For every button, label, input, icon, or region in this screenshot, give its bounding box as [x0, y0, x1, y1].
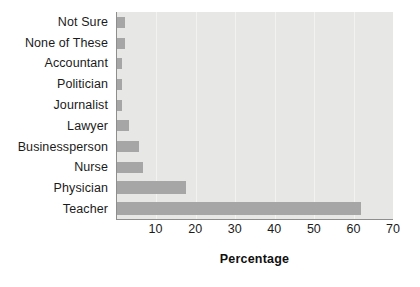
y-axis-label-journalist: Journalist: [54, 99, 114, 112]
bar-businessperson: [117, 141, 139, 152]
x-tick-50: 50: [307, 222, 321, 236]
bar-none-of-these: [117, 38, 125, 49]
x-axis-tick-labels: 10203040506070: [116, 222, 393, 240]
bar-row: [117, 12, 393, 33]
x-tick-40: 40: [267, 222, 281, 236]
x-axis-title: Percentage: [116, 252, 393, 266]
y-axis-label-not-sure: Not Sure: [58, 16, 113, 29]
bar-row: [117, 157, 393, 178]
bar-row: [117, 136, 393, 157]
bar-row: [117, 178, 393, 199]
x-tick-10: 10: [149, 222, 163, 236]
y-axis-label-politician: Politician: [57, 78, 113, 91]
bar-row: [117, 33, 393, 54]
x-tick-30: 30: [228, 222, 242, 236]
bar-politician: [117, 79, 122, 90]
bar-journalist: [117, 100, 122, 111]
plot-area: [116, 12, 393, 220]
y-axis-category-labels: Not Sure None of These Accountant Politi…: [0, 12, 113, 220]
x-tick-20: 20: [188, 222, 202, 236]
bar-row: [117, 95, 393, 116]
bar-physician: [117, 181, 186, 194]
bar-row: [117, 198, 393, 219]
bar-nurse: [117, 162, 143, 173]
bar-not-sure: [117, 17, 125, 28]
bar-lawyer: [117, 120, 129, 131]
y-axis-label-none-of-these: None of These: [25, 37, 113, 50]
bar-accountant: [117, 58, 122, 69]
bars-layer: [117, 12, 393, 219]
bar-teacher: [117, 202, 361, 215]
y-axis-label-lawyer: Lawyer: [67, 120, 113, 133]
y-axis-label-nurse: Nurse: [74, 161, 113, 174]
x-tick-70: 70: [386, 222, 400, 236]
y-axis-label-accountant: Accountant: [44, 57, 113, 70]
y-axis-label-physician: Physician: [54, 182, 113, 195]
bar-chart-figure: Not Sure None of These Accountant Politi…: [0, 0, 420, 287]
bar-row: [117, 116, 393, 137]
x-tick-60: 60: [346, 222, 360, 236]
bar-row: [117, 74, 393, 95]
y-axis-label-teacher: Teacher: [63, 203, 113, 216]
y-axis-label-businessperson: Businessperson: [18, 141, 113, 154]
bar-row: [117, 53, 393, 74]
